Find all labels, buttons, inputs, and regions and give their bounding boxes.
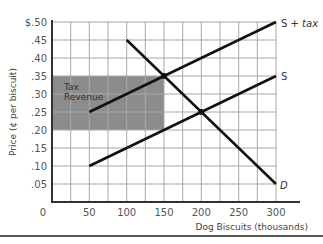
y-tick-015: .15 [31, 143, 47, 154]
x-tick-100: 100 [117, 207, 136, 218]
intersection-point-equilibrium [198, 109, 204, 115]
x-tick-300: 300 [266, 207, 285, 218]
curve-label-d: D [280, 180, 288, 191]
y-tick-030: .30 [31, 89, 47, 100]
grid [52, 22, 276, 202]
y-tick-035: .35 [31, 71, 47, 82]
x-tick-50: 50 [83, 207, 96, 218]
y-tick-010: .10 [31, 161, 47, 172]
supply-demand-chart: $.50 .45 .40 .35 .30 .25 .20 .15 .10 .05… [0, 0, 323, 244]
tax-revenue-label-line2: Revenue [64, 92, 104, 102]
x-tick-200: 200 [192, 207, 211, 218]
curve-label-s: S [281, 71, 287, 82]
y-axis-label: Price (¢ per biscuit) [8, 68, 18, 156]
x-axis-label: Dog Biscuits (thousands) [196, 222, 308, 232]
y-tick-020: .20 [31, 125, 47, 136]
y-tick-040: .40 [31, 53, 47, 64]
curve-label-s-tax: S + tax [281, 18, 318, 29]
x-tick-250: 250 [229, 207, 248, 218]
x-tick-0: 0 [40, 207, 46, 218]
tax-revenue-label-line1: Tax [63, 82, 80, 92]
y-tick-050: $.50 [25, 17, 47, 28]
intersection-point-tax [161, 73, 167, 79]
x-tick-150: 150 [154, 207, 173, 218]
y-tick-025: .25 [31, 107, 47, 118]
y-tick-045: .45 [31, 35, 47, 46]
y-tick-005: .05 [31, 179, 47, 190]
